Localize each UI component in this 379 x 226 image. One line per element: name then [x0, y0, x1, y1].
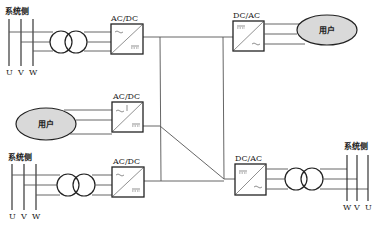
- phase-label: W: [343, 203, 352, 212]
- phase-label: U: [9, 212, 16, 221]
- conv-top-left: AC/DC: [110, 14, 143, 54]
- xfmr-bottom-left: [57, 174, 95, 196]
- conv-mid-left: AC/DC: [112, 92, 143, 132]
- converter-label: AC/DC: [110, 14, 138, 23]
- grid-bottom-left: 系统侧 U V W: [8, 152, 60, 221]
- phase-label: V: [20, 212, 27, 221]
- phase-label: W: [29, 68, 38, 77]
- xfmr-top-left: [50, 31, 87, 53]
- user-label: 用户: [37, 119, 54, 129]
- conv-bottom-left: AC/DC: [112, 157, 144, 197]
- phase-label: V: [17, 68, 24, 77]
- phase-label: W: [32, 212, 41, 221]
- converter-label: AC/DC: [112, 92, 140, 101]
- grid-bottom-right: 系统侧 W V U: [320, 141, 372, 212]
- user-label: 用户: [318, 25, 335, 35]
- phase-label: U: [365, 203, 372, 212]
- grid-top-left: 系统侧 U V W: [5, 6, 53, 77]
- phase-label: V: [353, 203, 360, 212]
- converter-label: DC/AC: [233, 11, 260, 20]
- conv-top-right: DC/AC: [233, 11, 264, 51]
- conv-bottom-right: DC/AC: [235, 154, 266, 195]
- user-top-right: 用户: [297, 15, 357, 45]
- converter-label: DC/AC: [235, 154, 262, 163]
- grid-label: 系统侧: [8, 152, 32, 162]
- power-system-diagram: 系统侧 U V W AC/DC DC/AC: [0, 0, 379, 226]
- xfmr-bottom-right: [285, 168, 323, 190]
- user-mid-left: 用户: [16, 108, 76, 140]
- converter-label: AC/DC: [112, 157, 140, 166]
- dc-network: [142, 37, 235, 181]
- grid-label: 系统侧: [344, 141, 368, 151]
- grid-label: 系统侧: [5, 6, 29, 16]
- phase-label: U: [6, 68, 13, 77]
